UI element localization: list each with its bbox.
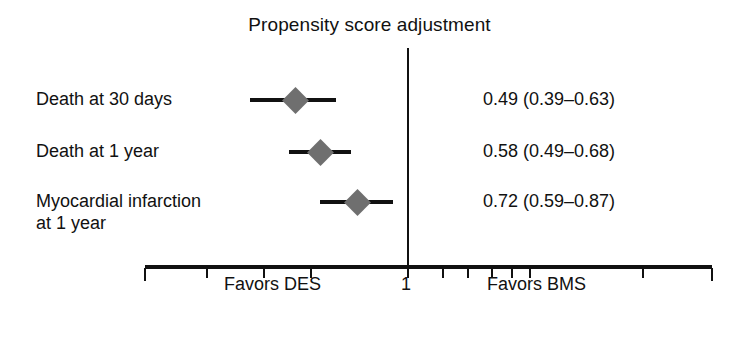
reference-line	[407, 48, 409, 271]
x-axis-tick	[206, 268, 208, 278]
row-value-death-1-year: 0.58 (0.49–0.68)	[483, 140, 615, 162]
plot-area: Death at 30 days 0.49 (0.39–0.63) Death …	[0, 0, 739, 344]
x-axis-tick	[467, 268, 469, 278]
x-axis-tick	[144, 268, 146, 281]
x-axis-line	[145, 265, 712, 269]
x-axis-tick	[642, 268, 644, 278]
forest-plot-figure: Propensity score adjustment Death at 30 …	[0, 0, 739, 344]
row-label-death-30-days: Death at 30 days	[36, 88, 172, 110]
row-value-death-30-days: 0.49 (0.39–0.63)	[483, 88, 615, 110]
point-estimate-marker	[307, 139, 334, 166]
row-label-death-1-year: Death at 1 year	[36, 140, 159, 162]
row-label-myocardial-infarction-1-year: Myocardial infarction at 1 year	[36, 190, 201, 234]
point-estimate-marker	[282, 87, 309, 114]
row-value-myocardial-infarction-1-year: 0.72 (0.59–0.87)	[483, 190, 615, 212]
axis-reference-label: 1	[401, 274, 411, 295]
axis-caption-favors-des: Favors DES	[224, 274, 321, 295]
x-axis-tick	[442, 268, 444, 278]
x-axis-tick	[711, 268, 713, 281]
point-estimate-marker	[344, 189, 371, 216]
axis-caption-favors-bms: Favors BMS	[487, 274, 586, 295]
